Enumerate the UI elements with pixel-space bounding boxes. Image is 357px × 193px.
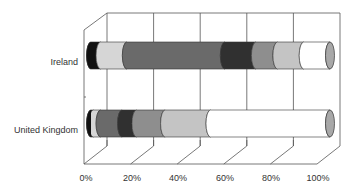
bar-segment	[220, 42, 256, 69]
floor-gridline	[131, 146, 154, 164]
x-tick-80: 80%	[262, 173, 280, 183]
bars	[87, 42, 335, 137]
x-tick-100: 100%	[306, 173, 329, 183]
bar-start	[87, 110, 91, 137]
floor-gridline	[177, 146, 200, 164]
bar-segment	[161, 110, 211, 137]
bar-segment	[132, 110, 165, 137]
x-tick-20: 20%	[123, 173, 141, 183]
chart-frame	[84, 13, 340, 164]
bar-segment	[206, 110, 330, 137]
gridlines	[84, 13, 293, 164]
bar-end-cap	[326, 110, 335, 137]
x-tick-0: 0%	[79, 173, 92, 183]
stacked-cylinder-bar-chart: Ireland United Kingdom 0% 20% 40% 60% 80…	[0, 0, 357, 193]
bar-segment	[122, 42, 224, 69]
bar-united-kingdom	[87, 110, 335, 137]
floor-gridline	[224, 146, 247, 164]
floor-gridline	[270, 146, 293, 164]
bar-start	[87, 42, 91, 69]
side-wall-top	[84, 13, 107, 30]
category-label-united-kingdom: United Kingdom	[14, 125, 78, 135]
x-tick-60: 60%	[216, 173, 234, 183]
floor-right-edge	[317, 146, 340, 164]
bar-ireland	[87, 42, 335, 69]
x-tick-40: 40%	[169, 173, 187, 183]
bar-end-cap	[326, 42, 335, 69]
category-label-ireland: Ireland	[50, 57, 78, 67]
floor-gridline	[84, 146, 107, 164]
